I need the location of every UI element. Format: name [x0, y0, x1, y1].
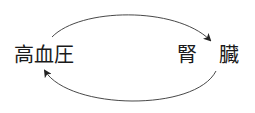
node-hypertension: 高血圧	[14, 44, 74, 66]
arrow-kidney-to-hypertension	[45, 71, 216, 101]
cycle-diagram: 高血圧 腎 臓	[0, 0, 255, 113]
node-kidney-char-1: 腎	[177, 44, 197, 66]
arrow-hypertension-to-kidney	[52, 15, 210, 40]
node-kidney-char-2: 臓	[219, 44, 239, 66]
